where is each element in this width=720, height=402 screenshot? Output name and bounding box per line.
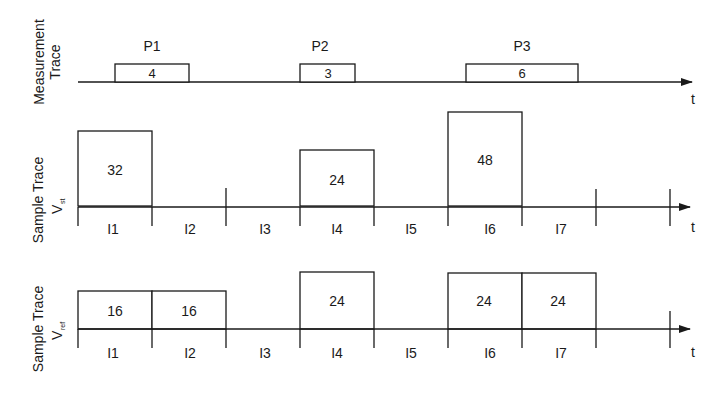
vref-bar-i6-value: 24: [476, 293, 492, 309]
pulse-p1-name: P1: [143, 38, 160, 54]
measurement-trace: Measurement Trace t P1 4 P2 3 P3 6: [31, 19, 695, 107]
vref-interval-i7: I7: [555, 345, 567, 361]
vst-bar-i6-value: 48: [477, 152, 493, 168]
measurement-trace-label-line2: Trace: [47, 44, 63, 79]
vst-interval-i5: I5: [405, 221, 417, 237]
timing-diagram: Measurement Trace t P1 4 P2 3 P3 6 Sampl…: [0, 0, 720, 402]
vst-sample-trace: Sample Trace V st 32 24 48 t I1 I2: [30, 112, 695, 243]
vref-bar-i7-value: 24: [550, 293, 566, 309]
pulse-p2-value: 3: [324, 66, 331, 81]
vref-interval-i6: I6: [484, 345, 496, 361]
vref-symbol-v: V: [49, 330, 65, 340]
vst-symbol-subscript: st: [59, 199, 66, 205]
vref-bar-i1-value: 16: [107, 303, 123, 319]
vref-symbol: V ref: [49, 322, 66, 340]
vst-trace-label: Sample Trace: [30, 157, 46, 244]
vref-symbol-subscript: ref: [59, 322, 66, 330]
pulse-p2-name: P2: [311, 38, 328, 54]
vref-bar-i4-value: 24: [329, 293, 345, 309]
vst-axis-t-label: t: [691, 219, 695, 235]
measurement-trace-label-line1: Measurement: [31, 19, 47, 105]
vst-interval-i7: I7: [555, 221, 567, 237]
vst-interval-i1: I1: [107, 221, 119, 237]
vref-sample-trace: Sample Trace V ref 16 16 24 24 24 t: [30, 272, 695, 372]
vst-interval-i4: I4: [331, 221, 343, 237]
pulse-p3-name: P3: [513, 38, 530, 54]
vst-bar-i1-value: 32: [107, 162, 123, 178]
vst-interval-i2: I2: [184, 221, 196, 237]
pulse-p3-value: 6: [518, 66, 525, 81]
vst-symbol-v: V: [49, 204, 65, 214]
vref-trace-label: Sample Trace: [30, 286, 46, 373]
vst-interval-i6: I6: [484, 221, 496, 237]
measurement-axis-t-label: t: [691, 91, 695, 107]
vref-interval-i3: I3: [259, 345, 271, 361]
vref-interval-i1: I1: [107, 345, 119, 361]
vref-interval-i2: I2: [184, 345, 196, 361]
vref-interval-i4: I4: [331, 345, 343, 361]
vst-interval-i3: I3: [259, 221, 271, 237]
pulse-p1-value: 4: [148, 66, 155, 81]
vref-axis-t-label: t: [691, 344, 695, 360]
vst-bar-i4-value: 24: [329, 172, 345, 188]
vst-symbol: V st: [49, 199, 66, 215]
vref-interval-i5: I5: [405, 345, 417, 361]
vref-bar-i2-value: 16: [181, 303, 197, 319]
